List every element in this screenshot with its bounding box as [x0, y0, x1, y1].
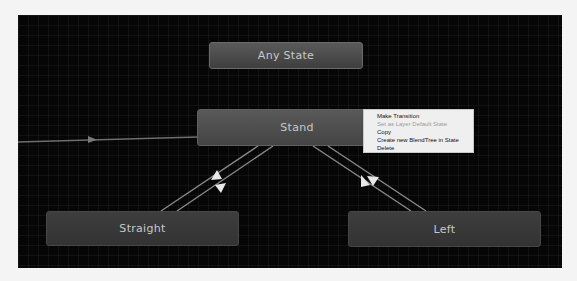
- state-label: Stand: [280, 121, 314, 134]
- menu-item-set-default-state: Set as Layer Default State: [364, 120, 473, 128]
- transition-stand-straight[interactable]: [161, 146, 273, 211]
- state-node-any-state[interactable]: Any State: [209, 42, 363, 69]
- transition-stand-left[interactable]: [313, 146, 426, 211]
- state-label: Straight: [119, 222, 165, 235]
- state-label: Left: [434, 223, 456, 236]
- state-node-left[interactable]: Left: [348, 211, 541, 247]
- context-menu: Make Transition Set as Layer Default Sta…: [363, 109, 474, 153]
- menu-item-make-transition[interactable]: Make Transition: [364, 112, 473, 120]
- menu-item-create-blendtree[interactable]: Create new BlendTree in State: [364, 136, 473, 144]
- state-label: Any State: [258, 49, 314, 62]
- arrow-icon: [88, 136, 97, 143]
- menu-item-copy[interactable]: Copy: [364, 128, 473, 136]
- animator-graph-canvas[interactable]: Any State Stand Straight Left: [18, 15, 562, 268]
- menu-item-delete[interactable]: Delete: [364, 144, 473, 152]
- state-node-straight[interactable]: Straight: [46, 211, 239, 246]
- entry-transition[interactable]: [18, 136, 198, 143]
